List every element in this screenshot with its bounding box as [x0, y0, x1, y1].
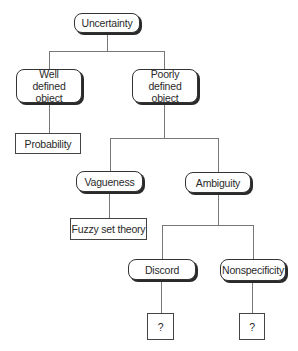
node-label: Vagueness: [85, 176, 135, 188]
uncertainty-taxonomy-diagram: Uncertainty Well defined object Poorly d…: [0, 0, 298, 351]
node-ambiguity: Ambiguity: [185, 172, 251, 193]
connector: [253, 225, 254, 259]
node-label: ?: [249, 321, 255, 333]
connector: [164, 104, 165, 138]
node-label: Fuzzy set theory: [72, 223, 146, 235]
connector: [164, 51, 165, 69]
node-label: Probability: [25, 138, 72, 150]
node-label: Well defined object: [22, 68, 76, 104]
node-nonspecificity-unknown: ?: [239, 313, 265, 340]
node-discord: Discord: [128, 259, 196, 280]
node-label: Uncertainty: [82, 17, 133, 29]
node-nonspecificity: Nonspecificity: [220, 259, 286, 281]
node-fuzzy-set-theory: Fuzzy set theory: [70, 218, 147, 240]
node-label: Nonspecificity: [222, 264, 284, 276]
connector: [218, 194, 219, 225]
connector: [110, 138, 219, 139]
connector: [49, 51, 50, 69]
connector: [162, 225, 254, 226]
connector: [252, 282, 253, 313]
connector: [110, 138, 111, 171]
connector: [49, 104, 50, 133]
connector: [49, 51, 165, 52]
node-label: Poorly defined object: [134, 68, 196, 104]
node-label: Ambiguity: [196, 177, 240, 189]
connector: [218, 138, 219, 172]
node-probability: Probability: [15, 133, 81, 154]
node-vagueness: Vagueness: [76, 171, 143, 192]
connector: [109, 193, 110, 218]
connector: [162, 225, 163, 259]
node-label: Discord: [145, 264, 179, 276]
node-uncertainty: Uncertainty: [74, 13, 140, 33]
node-well-defined-object: Well defined object: [16, 69, 82, 103]
node-label: ?: [158, 321, 164, 333]
connector: [107, 33, 108, 51]
node-discord-unknown: ?: [147, 313, 174, 340]
connector: [161, 281, 162, 313]
node-poorly-defined-object: Poorly defined object: [132, 69, 198, 103]
